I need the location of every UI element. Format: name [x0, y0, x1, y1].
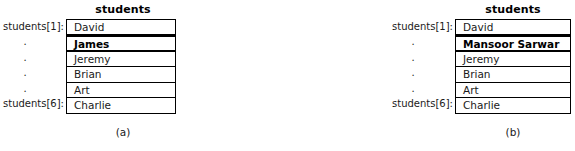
index-label-row-2: . [387, 34, 455, 49]
array-container-a: students[1]: . . . . students[6]: David … [0, 19, 199, 114]
array-cell: Jeremy [67, 52, 175, 67]
panel-a: students students[1]: . . . . students[6… [0, 0, 199, 151]
array-container-b: students[1]: . . . . students[6]: David … [387, 19, 575, 114]
index-label-row-1: students[1]: [0, 19, 66, 34]
array-cell: Art [456, 83, 570, 98]
panel-caption-a: (a) [68, 126, 178, 138]
index-column-a: students[1]: . . . . students[6]: [0, 19, 66, 114]
panel-caption-b: (b) [455, 126, 571, 138]
array-cell: Jeremy [456, 52, 570, 67]
array-box-a: David James Jeremy Brian Art Charlie [66, 19, 176, 114]
array-cell-highlighted: James [67, 35, 175, 51]
array-cell-highlighted: Mansoor Sarwar [456, 35, 570, 51]
array-title-b: students [455, 3, 571, 16]
index-label-row-5: . [0, 81, 66, 96]
index-column-b: students[1]: . . . . students[6]: [387, 19, 455, 114]
index-label-row-2: . [0, 34, 66, 49]
index-label-row-3: . [387, 50, 455, 65]
array-cell: Charlie [67, 98, 175, 113]
index-label-row-1: students[1]: [387, 19, 455, 34]
panel-b: students students[1]: . . . . students[6… [199, 0, 398, 151]
array-cell: David [456, 20, 570, 35]
index-label-row-5: . [387, 81, 455, 96]
array-box-b: David Mansoor Sarwar Jeremy Brian Art Ch… [455, 19, 571, 114]
index-label-row-4: . [387, 65, 455, 80]
array-cell: Brian [67, 67, 175, 82]
array-cell: Art [67, 83, 175, 98]
index-label-row-6: students[6]: [0, 96, 66, 111]
array-cell: Charlie [456, 98, 570, 113]
index-label-row-4: . [0, 65, 66, 80]
index-label-row-3: . [0, 50, 66, 65]
array-cell: Brian [456, 67, 570, 82]
index-label-row-6: students[6]: [387, 96, 455, 111]
array-title-a: students [68, 3, 178, 16]
array-cell: David [67, 20, 175, 35]
